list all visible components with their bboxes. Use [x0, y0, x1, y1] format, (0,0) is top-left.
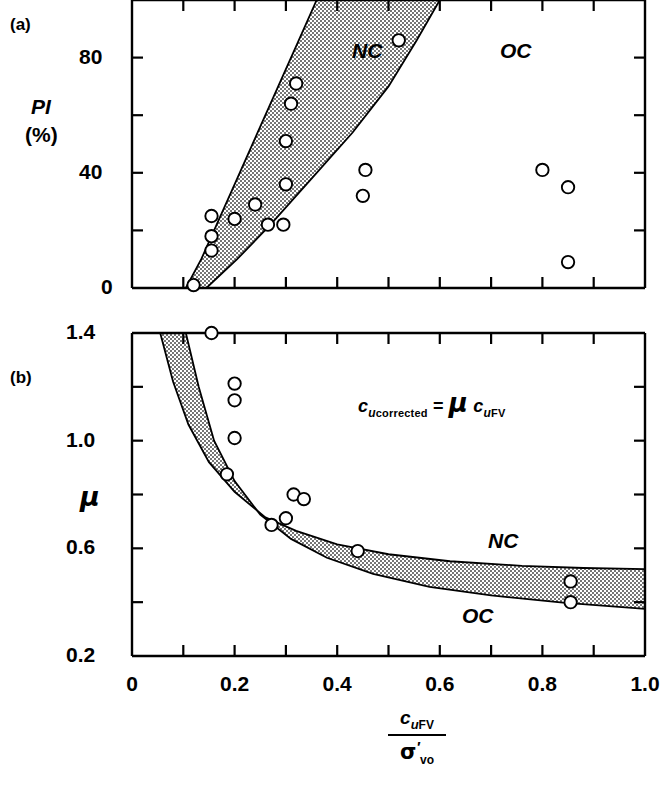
data-point — [536, 164, 548, 176]
panel-a-label-nc: NC — [352, 40, 382, 61]
correction-equation: cucorrected = μ cuFV — [358, 390, 506, 419]
panel-b-plot — [132, 327, 645, 656]
data-point — [285, 97, 297, 109]
data-point — [205, 244, 217, 256]
xaxis-numer-c: c — [400, 707, 411, 728]
data-point — [187, 279, 199, 291]
data-point — [205, 210, 217, 222]
fraction-bar — [388, 734, 446, 736]
panel-b-label-nc: NC — [488, 530, 518, 551]
xaxis-numer-sub-i: u — [411, 717, 419, 732]
ytick-label: 0.2 — [66, 644, 95, 665]
ytick-label: 0 — [101, 276, 113, 297]
xaxis-denom-sigma: σ — [400, 741, 416, 765]
xtick-label: 0.6 — [420, 673, 460, 694]
panel-b-label-oc: OC — [462, 605, 494, 626]
data-point — [352, 545, 364, 557]
data-point — [280, 512, 292, 524]
data-point — [228, 394, 240, 406]
ytick-label: 1.0 — [66, 429, 95, 450]
equation-sub2: FV — [491, 407, 505, 419]
xtick-label: 1.0 — [625, 673, 665, 694]
data-point — [228, 377, 240, 389]
data-point — [205, 327, 217, 339]
equation-equals: = — [433, 396, 444, 416]
data-point — [359, 164, 371, 176]
ytick-label: 40 — [79, 161, 102, 182]
band-upper-boundary — [160, 333, 645, 569]
data-point — [265, 519, 277, 531]
data-point — [298, 493, 310, 505]
ytick-label: 1.4 — [66, 321, 95, 342]
data-point — [249, 198, 261, 210]
data-point — [290, 77, 302, 89]
xtick-label: 0.2 — [215, 673, 255, 694]
data-point — [277, 218, 289, 230]
data-point — [280, 178, 292, 190]
ytick-label: 0.6 — [66, 536, 95, 557]
xaxis-title-denominator: σ′vo — [352, 739, 482, 767]
data-point — [562, 181, 574, 193]
panel-a-label-oc: OC — [500, 40, 532, 61]
xtick-label: 0.4 — [317, 673, 357, 694]
data-point — [221, 468, 233, 480]
xaxis-numer-sub: FV — [419, 718, 434, 732]
equation-c2: c — [473, 396, 483, 416]
data-point — [357, 190, 369, 202]
data-point — [280, 135, 292, 147]
xaxis-denom-sub: vo — [420, 754, 434, 768]
xaxis-title: cuFV σ′vo — [352, 708, 482, 767]
equation-sub1-i: u — [368, 406, 376, 420]
data-point — [262, 218, 274, 230]
xtick-label: 0 — [125, 673, 139, 694]
data-point — [564, 596, 576, 608]
equation-c1: c — [358, 396, 368, 416]
data-point — [228, 432, 240, 444]
xtick-label: 0.8 — [522, 673, 562, 694]
data-point — [393, 34, 405, 46]
data-point — [228, 213, 240, 225]
equation-sub1: corrected — [376, 407, 428, 419]
panel-a-plot — [132, 0, 645, 291]
data-point — [562, 256, 574, 268]
figure-container: (a) (b) PI (%) μ 04080 0.20.61.01.4 00.2… — [0, 0, 670, 799]
xaxis-title-numerator: cuFV — [352, 708, 482, 731]
equation-sub2-i: u — [484, 406, 492, 420]
data-point — [205, 230, 217, 242]
equation-mu: μ — [449, 388, 468, 418]
ytick-label: 80 — [79, 46, 102, 67]
data-point — [564, 575, 576, 587]
